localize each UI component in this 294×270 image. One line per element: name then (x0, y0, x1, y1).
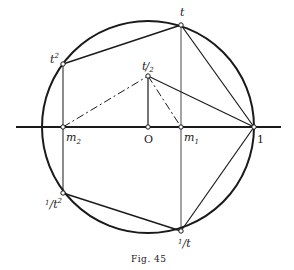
point-t-squared (61, 62, 65, 66)
label-one: 1 (257, 133, 264, 146)
figure-caption: Fig. 45 (131, 254, 167, 264)
point-m1 (179, 125, 183, 129)
dashdot-m2-thalf (63, 76, 148, 127)
point-inv-t (179, 229, 183, 233)
point-t (179, 23, 183, 27)
point-inv-t-squared (61, 191, 65, 195)
label-origin: O (144, 133, 153, 146)
point-O (146, 125, 150, 129)
point-one (252, 125, 256, 129)
geometry-figure: t t2 t/2 O 1 m1 m2 1/t 1/t2 Fig. 45 (0, 0, 294, 270)
segment-thalf-1 (148, 76, 254, 127)
label-inv-t-squared: 1/t2 (45, 197, 63, 211)
point-t-half (146, 74, 150, 78)
edge-invt-invt2 (63, 193, 181, 231)
point-m2 (61, 125, 65, 129)
label-m2: m2 (66, 131, 81, 146)
label-t-half: t/2 (142, 60, 154, 74)
label-t-squared: t2 (50, 52, 59, 66)
label-m1: m1 (184, 131, 199, 146)
edge-1-t (181, 25, 254, 127)
label-t: t (180, 6, 185, 19)
label-inv-t: 1/t (178, 237, 191, 250)
